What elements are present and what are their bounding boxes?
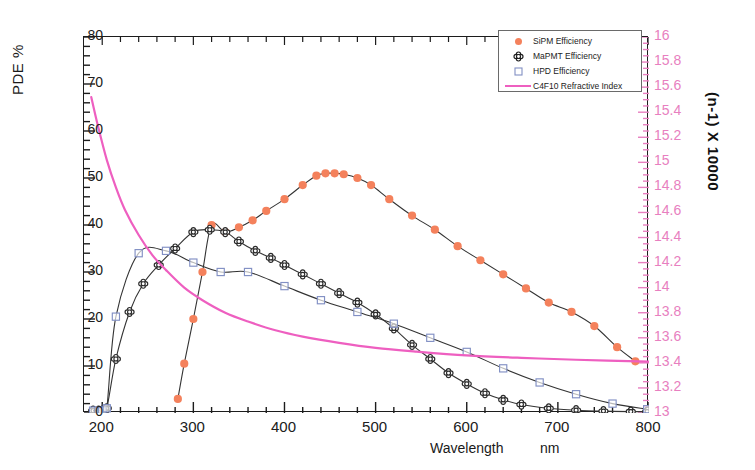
right-axis-tick-label: 16 [654, 28, 700, 42]
series-2 [90, 247, 649, 413]
open-square-icon [503, 66, 533, 77]
legend-item-0[interactable]: SiPM Efficiency [503, 34, 637, 48]
legend-item-1[interactable]: MaPMT Efficiency [503, 49, 637, 63]
legend-item-label: SiPM Efficiency [533, 36, 592, 46]
x-axis-tick-label: 300 [162, 418, 222, 435]
right-axis-tick-label: 13.6 [654, 329, 700, 343]
left-axis-tick-label: 20 [63, 310, 103, 324]
plot-svg [84, 37, 649, 413]
right-axis-tick-label: 15 [654, 153, 700, 167]
legend-item-label: MaPMT Efficiency [533, 51, 601, 61]
right-axis-tick-label: 14 [654, 279, 700, 293]
right-axis-tick-label: 14.8 [654, 178, 700, 192]
x-axis-tick-label: 200 [71, 418, 131, 435]
x-axis-tick-label: 600 [436, 418, 496, 435]
right-axis-tick-label: 13.8 [654, 304, 700, 318]
right-axis-title: (n-1) X 10000 [700, 42, 726, 242]
open-clover-icon [503, 50, 533, 63]
left-axis-tick-label: 60 [63, 122, 103, 136]
x-axis-tick-label: 800 [618, 418, 678, 435]
right-axis-tick-label: 13.2 [654, 379, 700, 393]
right-axis-tick-label: 15.4 [654, 103, 700, 117]
series-0 [174, 169, 640, 403]
legend: SiPM EfficiencyMaPMT EfficiencyHPD Effic… [498, 30, 642, 92]
x-axis-title: Wavelength [430, 440, 503, 456]
left-axis-tick-label: 50 [63, 169, 103, 183]
legend-item-label: C4F10 Refractive Index [533, 81, 622, 91]
x-axis-tick-label: 500 [345, 418, 405, 435]
left-axis-tick-label: 10 [63, 357, 103, 371]
right-axis-tick-label: 13.4 [654, 354, 700, 368]
line-swatch-icon [503, 85, 533, 87]
series-3 [91, 97, 649, 361]
x-axis-tick-label: 700 [527, 418, 587, 435]
legend-item-label: HPD Efficiency [533, 66, 590, 76]
left-axis-tick-label: 30 [63, 263, 103, 277]
right-axis-tick-label: 15.6 [654, 78, 700, 92]
left-axis-tick-label: 40 [63, 216, 103, 230]
left-axis-tick-label: 80 [63, 28, 103, 42]
left-axis-tick-label: 0 [63, 404, 103, 418]
right-axis-tick-label: 13 [654, 404, 700, 418]
right-axis-tick-label: 14.4 [654, 229, 700, 243]
x-axis-unit: nm [540, 440, 559, 456]
left-axis-title: PDE % [6, 30, 28, 110]
right-axis-tick-label: 15.2 [654, 128, 700, 142]
right-axis-tick-label: 14.6 [654, 203, 700, 217]
right-axis-tick-label: 14.2 [654, 254, 700, 268]
filled-circle-icon [503, 38, 533, 45]
legend-item-2[interactable]: HPD Efficiency [503, 64, 637, 78]
left-axis-tick-label: 70 [63, 75, 103, 89]
legend-item-3[interactable]: C4F10 Refractive Index [503, 79, 637, 93]
right-axis-tick-label: 15.8 [654, 53, 700, 67]
chart-canvas: PDE % (n-1) X 10000 SiPM EfficiencyMaPMT… [0, 0, 755, 470]
x-axis-tick-label: 400 [253, 418, 313, 435]
